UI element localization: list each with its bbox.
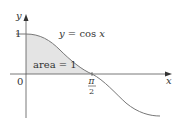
pi-label: π (88, 76, 96, 86)
origin-label: 0 (17, 76, 23, 87)
area-annotation: area = 1 (33, 59, 77, 70)
cos-area-chart: y x 0 1 π 2 y = cos x area = 1 (0, 0, 181, 128)
two-label: 2 (89, 87, 94, 96)
y-axis-arrow-icon (24, 14, 29, 21)
y-axis-label: y (15, 10, 22, 21)
x-axis-label: x (166, 75, 172, 86)
curve-equation-label: y = cos x (58, 28, 105, 39)
y-tick-one-label: 1 (15, 28, 21, 39)
